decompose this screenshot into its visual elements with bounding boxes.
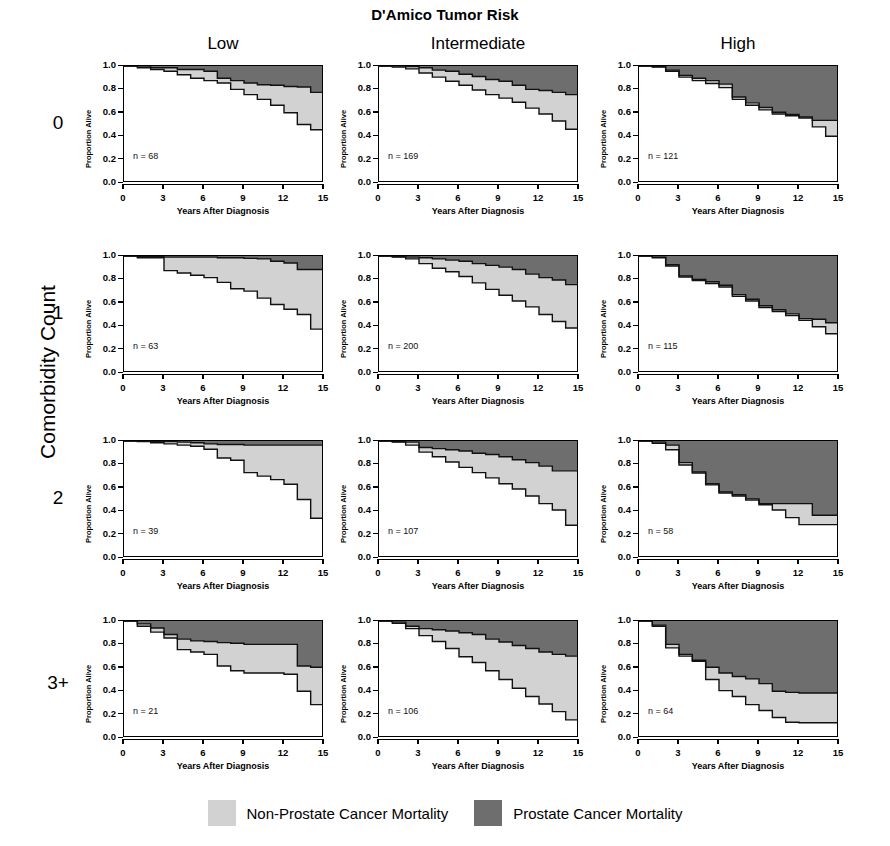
x-tick-label: 12	[523, 567, 553, 578]
y-tick-label: 0.8	[601, 272, 631, 283]
x-tick-label: 12	[783, 567, 813, 578]
x-tick-label: 0	[108, 747, 138, 758]
x-tick-label: 12	[268, 747, 298, 758]
y-tick-mark	[373, 255, 378, 256]
plot-area	[638, 440, 838, 557]
x-tick-label: 0	[623, 382, 653, 393]
y-tick-mark	[373, 88, 378, 89]
x-axis-title: Years After Diagnosis	[123, 396, 323, 406]
x-tick-label: 12	[268, 382, 298, 393]
panel-1-low: n = 631.00.80.60.40.20.003691215Proporti…	[78, 245, 338, 432]
x-tick-label: 6	[703, 192, 733, 203]
x-axis-title: Years After Diagnosis	[378, 761, 578, 771]
x-tick-label: 3	[148, 382, 178, 393]
x-axis-title: Years After Diagnosis	[123, 206, 323, 216]
y-tick-mark	[373, 301, 378, 302]
y-axis-title: Proportion Alive	[599, 110, 608, 168]
x-axis-line	[378, 374, 578, 375]
x-axis-title: Years After Diagnosis	[123, 581, 323, 591]
x-tick-label: 15	[823, 192, 853, 203]
y-axis-title: Proportion Alive	[84, 665, 93, 723]
y-tick-label: 1.0	[86, 249, 116, 260]
x-tick-label: 15	[823, 382, 853, 393]
y-tick-mark	[118, 65, 123, 66]
plot-area	[123, 620, 323, 737]
x-axis-title: Years After Diagnosis	[638, 761, 838, 771]
y-axis-title: Proportion Alive	[599, 300, 608, 358]
x-tick-label: 0	[363, 567, 393, 578]
y-tick-mark	[373, 111, 378, 112]
y-axis-title: Proportion Alive	[84, 110, 93, 168]
y-tick-label: 0.8	[341, 457, 371, 468]
sample-size-label: n = 169	[388, 151, 418, 161]
y-tick-mark	[633, 325, 638, 326]
x-tick-label: 9	[483, 747, 513, 758]
x-axis-line	[638, 559, 838, 560]
x-tick-label: 12	[268, 192, 298, 203]
x-tick-label: 9	[483, 567, 513, 578]
x-tick-label: 9	[483, 382, 513, 393]
x-tick-label: 15	[563, 192, 593, 203]
x-axis-line	[123, 739, 323, 740]
y-tick-mark	[373, 690, 378, 691]
x-axis-line	[638, 374, 838, 375]
plot-area	[378, 255, 578, 372]
panel-0-low: n = 681.00.80.60.40.20.003691215Proporti…	[78, 55, 338, 242]
y-tick-mark	[118, 135, 123, 136]
legend-item-prostate: Prostate Cancer Mortality	[474, 800, 682, 826]
x-tick-label: 15	[563, 567, 593, 578]
prostate-mortality-area	[639, 66, 838, 120]
y-tick-mark	[633, 158, 638, 159]
y-tick-label: 0.0	[341, 366, 371, 377]
y-tick-label: 0.8	[601, 82, 631, 93]
sample-size-label: n = 115	[648, 341, 678, 351]
x-tick-label: 6	[443, 567, 473, 578]
x-axis-line	[123, 374, 323, 375]
panel-3plus-high: n = 641.00.80.60.40.20.003691215Proporti…	[593, 610, 853, 797]
panel-2-intermediate: n = 1071.00.80.60.40.20.003691215Proport…	[333, 430, 593, 617]
y-tick-mark	[118, 88, 123, 89]
x-tick-label: 0	[623, 747, 653, 758]
y-tick-label: 0.8	[86, 272, 116, 283]
x-tick-label: 12	[783, 747, 813, 758]
y-tick-mark	[373, 135, 378, 136]
y-tick-mark	[633, 348, 638, 349]
x-axis-line	[638, 184, 838, 185]
x-tick-label: 9	[228, 382, 258, 393]
y-tick-mark	[373, 278, 378, 279]
x-tick-label: 12	[523, 382, 553, 393]
x-tick-label: 0	[108, 382, 138, 393]
y-tick-label: 0.0	[86, 176, 116, 187]
sample-size-label: n = 64	[648, 706, 673, 716]
y-tick-mark	[373, 325, 378, 326]
x-tick-label: 9	[743, 747, 773, 758]
column-header-high: High	[638, 34, 838, 54]
x-tick-label: 3	[663, 192, 693, 203]
row-header-3p: 3+	[38, 672, 78, 694]
x-tick-label: 6	[188, 567, 218, 578]
y-tick-mark	[633, 510, 638, 511]
y-tick-label: 0.8	[341, 272, 371, 283]
row-header-0: 0	[38, 112, 78, 134]
y-tick-mark	[118, 463, 123, 464]
x-tick-label: 6	[188, 747, 218, 758]
x-tick-label: 0	[363, 382, 393, 393]
x-axis-title: Years After Diagnosis	[378, 581, 578, 591]
y-axis-title: Proportion Alive	[339, 110, 348, 168]
x-axis-title: Years After Diagnosis	[378, 206, 578, 216]
x-tick-label: 9	[743, 567, 773, 578]
y-tick-mark	[118, 533, 123, 534]
y-tick-mark	[373, 486, 378, 487]
x-tick-label: 6	[443, 192, 473, 203]
y-tick-mark	[118, 643, 123, 644]
x-tick-label: 0	[363, 747, 393, 758]
x-axis-line	[378, 184, 578, 185]
y-tick-mark	[633, 255, 638, 256]
y-axis-title: Proportion Alive	[339, 300, 348, 358]
x-tick-label: 12	[523, 747, 553, 758]
x-tick-label: 6	[188, 192, 218, 203]
x-axis-title: Years After Diagnosis	[638, 206, 838, 216]
y-tick-label: 1.0	[601, 434, 631, 445]
panel-0-high: n = 1211.00.80.60.40.20.003691215Proport…	[593, 55, 853, 242]
x-tick-label: 15	[823, 567, 853, 578]
